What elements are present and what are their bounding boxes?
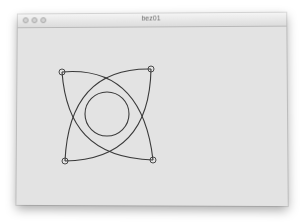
center-circle (85, 92, 129, 136)
bezier-drawing (0, 0, 302, 224)
curve-tl-br-lower (62, 72, 153, 160)
curve-tl-br-upper (62, 72, 153, 160)
curve-tr-bl-upper (65, 69, 151, 161)
curve-tr-bl-lower (65, 69, 151, 161)
